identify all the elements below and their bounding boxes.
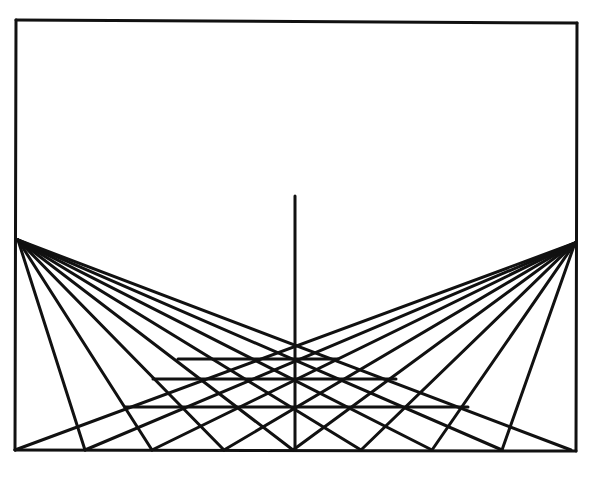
frame-left-edge	[15, 20, 16, 450]
left-fan-line	[18, 240, 361, 450]
left-fan-line	[18, 240, 502, 450]
left-fan-line	[18, 240, 152, 450]
right-fan-line	[224, 243, 575, 450]
left-fan-line	[18, 240, 293, 450]
right-fan-line	[361, 243, 575, 450]
left-fan-line	[18, 240, 85, 450]
diagram-canvas	[0, 0, 590, 477]
perspective-illusion-diagram	[0, 0, 590, 477]
frame-right-edge	[576, 23, 577, 451]
left-fan-line	[18, 240, 224, 450]
frame-top-edge	[16, 20, 577, 23]
